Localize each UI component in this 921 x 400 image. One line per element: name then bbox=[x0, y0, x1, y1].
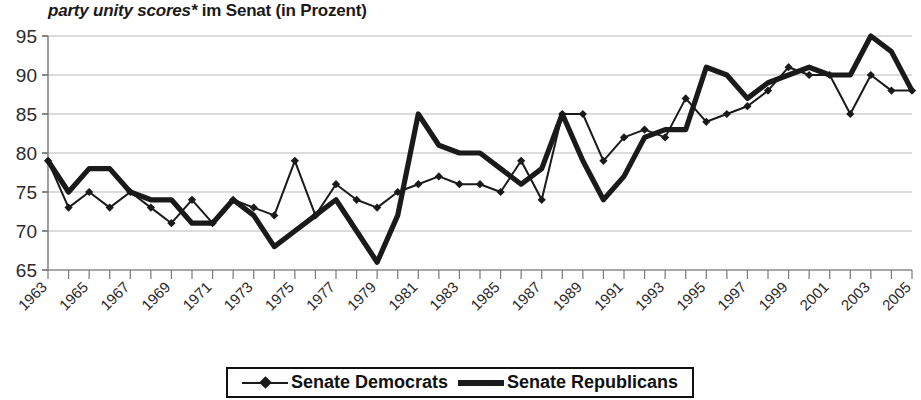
legend-label-democrats: Senate Democrats bbox=[291, 372, 448, 393]
svg-text:1983: 1983 bbox=[426, 278, 462, 314]
chart-plot-area: 65707580859095 1963196519671969197119731… bbox=[0, 0, 921, 400]
legend-entry-democrats: Senate Democrats bbox=[242, 372, 448, 393]
svg-text:1979: 1979 bbox=[344, 278, 380, 314]
svg-text:1995: 1995 bbox=[673, 278, 709, 314]
series-senate-republicans bbox=[48, 36, 912, 262]
svg-text:1971: 1971 bbox=[179, 278, 215, 314]
chart-container: party unity scores* im Senat (in Prozent… bbox=[0, 0, 921, 400]
svg-text:1999: 1999 bbox=[755, 278, 791, 314]
svg-text:1981: 1981 bbox=[385, 278, 421, 314]
chart-legend: Senate Democrats Senate Republicans bbox=[226, 367, 694, 398]
svg-text:1985: 1985 bbox=[467, 278, 503, 314]
svg-text:75: 75 bbox=[16, 182, 37, 203]
svg-text:70: 70 bbox=[16, 221, 37, 242]
legend-entry-republicans: Senate Republicans bbox=[458, 372, 678, 393]
svg-text:1991: 1991 bbox=[591, 278, 627, 314]
legend-label-republicans: Senate Republicans bbox=[507, 372, 678, 393]
svg-text:1969: 1969 bbox=[138, 278, 174, 314]
legend-swatch-republicans-line-icon bbox=[458, 376, 504, 390]
svg-text:1987: 1987 bbox=[508, 278, 544, 314]
x-tick-labels: 1963196519671969197119731975197719791981… bbox=[15, 278, 915, 314]
svg-text:95: 95 bbox=[16, 26, 37, 47]
svg-text:2001: 2001 bbox=[796, 278, 832, 314]
svg-text:85: 85 bbox=[16, 104, 37, 125]
svg-text:1997: 1997 bbox=[714, 278, 750, 314]
svg-text:1973: 1973 bbox=[220, 278, 256, 314]
svg-text:1977: 1977 bbox=[303, 278, 339, 314]
y-axis: 65707580859095 bbox=[16, 26, 48, 281]
svg-text:1967: 1967 bbox=[97, 278, 133, 314]
svg-text:1989: 1989 bbox=[549, 278, 585, 314]
svg-text:1965: 1965 bbox=[56, 278, 92, 314]
svg-text:65: 65 bbox=[16, 260, 37, 281]
legend-swatch-democrats-line-icon bbox=[242, 376, 288, 390]
svg-text:1975: 1975 bbox=[261, 278, 297, 314]
svg-text:1963: 1963 bbox=[15, 278, 51, 314]
svg-text:80: 80 bbox=[16, 143, 37, 164]
svg-text:90: 90 bbox=[16, 65, 37, 86]
svg-text:2003: 2003 bbox=[837, 278, 873, 314]
x-axis bbox=[48, 270, 912, 279]
svg-text:2005: 2005 bbox=[879, 278, 915, 314]
svg-text:1993: 1993 bbox=[632, 278, 668, 314]
